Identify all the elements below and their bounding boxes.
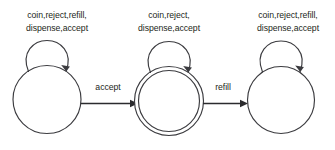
state-2-label-line1: coin,reject, xyxy=(148,10,189,20)
transition-refill-arrowhead xyxy=(240,100,248,108)
state-node-3[interactable] xyxy=(248,67,315,134)
fsm-canvas: coin,reject,refill, dispense,accept acce… xyxy=(0,0,335,150)
state-2-circle-outer[interactable] xyxy=(135,67,204,136)
transition-accept[interactable] xyxy=(81,100,138,108)
state-2-label-line2: dispense,accept xyxy=(138,23,201,33)
state-1-circle[interactable] xyxy=(13,66,81,134)
state-node-2[interactable] xyxy=(135,67,204,136)
transition-refill[interactable] xyxy=(203,100,248,108)
state-3-label-line2: dispense,accept xyxy=(257,23,320,33)
state-machine-diagram: coin,reject,refill, dispense,accept acce… xyxy=(0,0,335,150)
state-3-label-line1: coin,reject,refill, xyxy=(258,10,317,20)
state-node-1[interactable] xyxy=(13,66,81,134)
state-3-circle[interactable] xyxy=(248,67,315,134)
state-1-label-line2: dispense,accept xyxy=(26,23,89,33)
transition-accept-label: accept xyxy=(95,82,121,92)
state-1-label-line1: coin,reject,refill, xyxy=(27,10,86,20)
transition-refill-label: refill xyxy=(215,82,231,92)
